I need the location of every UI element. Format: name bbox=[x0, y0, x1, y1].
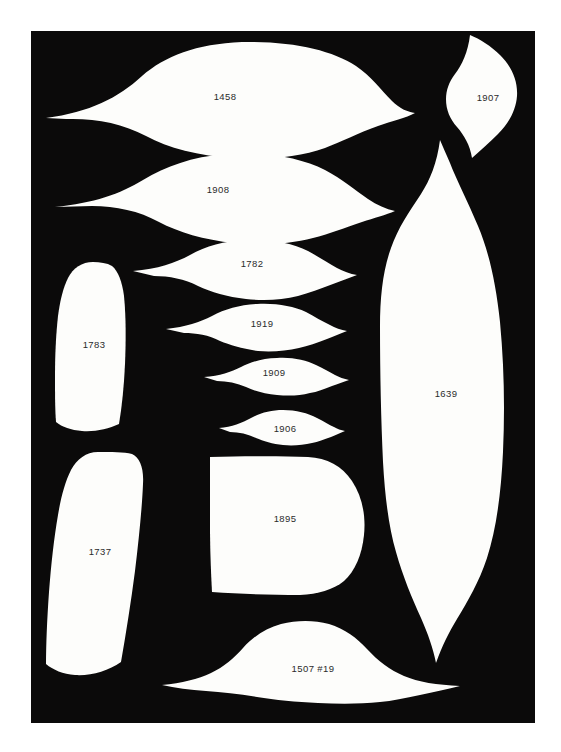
artifact-label-1737: 1737 bbox=[89, 546, 112, 557]
artifact-label-1919: 1919 bbox=[251, 318, 274, 329]
artifact-label-1895: 1895 bbox=[274, 513, 297, 524]
artifact-silhouette-1895 bbox=[210, 456, 365, 595]
artifact-label-1908: 1908 bbox=[207, 184, 230, 195]
plate-svg: 1458 1907 1908 1782 1919 1909 1906 1639 … bbox=[0, 0, 561, 752]
artifact-label-1783: 1783 bbox=[83, 339, 106, 350]
artifact-label-1906: 1906 bbox=[274, 423, 297, 434]
artifact-plate-figure: 1458 1907 1908 1782 1919 1909 1906 1639 … bbox=[0, 0, 561, 752]
artifact-label-1458: 1458 bbox=[214, 91, 237, 102]
artifact-label-1907: 1907 bbox=[477, 92, 500, 103]
artifact-label-1639: 1639 bbox=[435, 388, 458, 399]
artifact-label-1507: 1507 #19 bbox=[292, 663, 335, 674]
artifact-label-1782: 1782 bbox=[241, 258, 264, 269]
artifact-label-1909: 1909 bbox=[263, 367, 286, 378]
